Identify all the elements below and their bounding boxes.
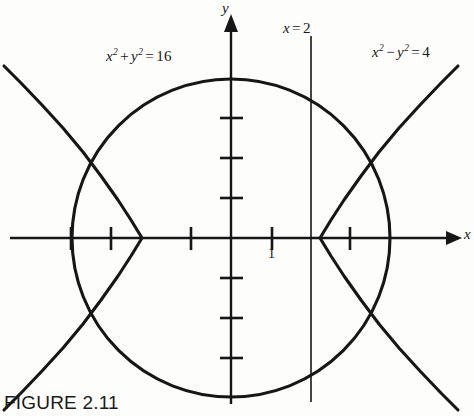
label-hyperbola-equation: x2−y2=4	[372, 44, 430, 61]
x-tick-label-1: 1	[268, 246, 275, 262]
figure-caption: FIGURE 2.11	[4, 392, 119, 414]
label-vertical-line-equation: x=2	[283, 20, 311, 37]
figure-container: x2+y2=16 x2−y2=4 x=2 y x 1 FIGURE 2.11	[0, 0, 474, 416]
vline-eq-lhs: x	[283, 20, 290, 36]
circle-eq-operator: +	[118, 48, 131, 64]
circle-eq-rhs: 16	[156, 48, 172, 64]
circle-eq-base1: x	[106, 48, 113, 64]
vline-eq-equals: =	[290, 20, 303, 36]
hyperbola-eq-base1: x	[372, 44, 379, 60]
axis-label-y: y	[222, 0, 229, 17]
label-circle-equation: x2+y2=16	[106, 48, 172, 65]
hyperbola-eq-equals: =	[409, 44, 422, 60]
x-axis-arrowhead-icon	[446, 231, 462, 245]
y-axis	[224, 14, 238, 404]
hyperbola-eq-operator: −	[384, 44, 397, 60]
circle-eq-equals: =	[143, 48, 156, 64]
hyperbola-eq-rhs: 4	[422, 44, 430, 60]
x-axis	[10, 231, 462, 245]
axis-label-x: x	[464, 226, 471, 243]
coordinate-plot	[0, 0, 474, 416]
vline-eq-rhs: 2	[303, 20, 311, 36]
